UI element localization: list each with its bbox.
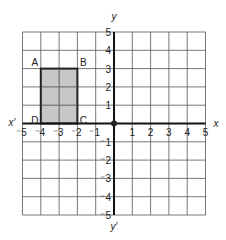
x-tick-label: ⁻3 (53, 127, 64, 138)
origin-dot (111, 121, 117, 127)
y-tick-label: ⁻2 (100, 155, 111, 166)
x-tick-label: 4 (184, 127, 190, 138)
x-tick-label: ⁻1 (89, 127, 100, 138)
vertex-label-c: C (80, 115, 87, 126)
x-tick-label: 3 (166, 127, 172, 138)
y-tick-label: 2 (105, 82, 111, 93)
vertex-label-d: D (31, 115, 38, 126)
x-tick-label: ⁻5 (16, 127, 27, 138)
x-axis-negative-label: x′ (8, 117, 17, 128)
x-tick-label: 5 (203, 127, 209, 138)
y-tick-label: 4 (105, 45, 111, 56)
y-axis-label: y (111, 11, 118, 22)
x-axis-label: x (213, 118, 220, 129)
coordinate-plane: ⁻5⁻4⁻3⁻2⁻11234554321⁻1⁻2⁻3⁻4⁻5xx′yy′ABCD (0, 0, 226, 240)
y-tick-label: 1 (105, 100, 111, 111)
x-tick-label: ⁻2 (71, 127, 82, 138)
y-tick-label: ⁻3 (100, 173, 111, 184)
x-tick-label: 1 (130, 127, 136, 138)
y-axis-negative-label: y′ (110, 221, 119, 232)
y-tick-label: ⁻5 (100, 210, 111, 221)
vertex-label-a: A (31, 57, 38, 68)
x-tick-label: 2 (148, 127, 154, 138)
x-tick-label: ⁻4 (35, 127, 46, 138)
y-tick-label: ⁻4 (100, 192, 111, 203)
vertex-label-b: B (80, 57, 87, 68)
y-tick-label: 3 (105, 64, 111, 75)
y-tick-label: ⁻1 (100, 137, 111, 148)
y-tick-label: 5 (105, 27, 111, 38)
